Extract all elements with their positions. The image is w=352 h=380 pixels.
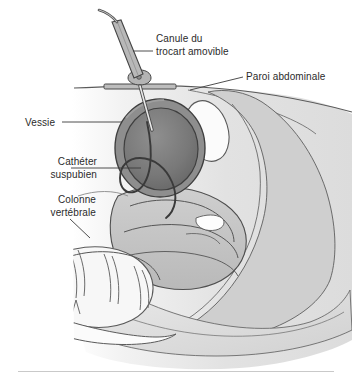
label-catheter-suspubien: Cathéter suspubien [17,156,97,181]
label-vessie: Vessie [25,117,55,130]
label-canule-line1: Canule du [156,33,203,44]
cannula-tubing [99,10,117,22]
label-catheter-line1: Cathéter [58,156,97,167]
label-colonne-line1: Colonne [58,194,96,205]
label-canule-trocart: Canule du trocart amovible [156,33,229,58]
label-canule-line2: trocart amovible [156,46,229,57]
label-colonne-line2: vertébrale [51,207,96,218]
label-colonne-vertebrale: Colonne vertébrale [20,194,96,219]
label-catheter-line2: suspubien [51,169,98,180]
label-paroi-abdominale: Paroi abdominale [246,71,325,84]
figure-bottom-rule [18,371,334,372]
bladder [115,99,205,197]
label-vessie-line1: Vessie [25,117,55,128]
suprapubic-catheter-figure: Canule du trocart amovible Paroi abdomin… [0,0,352,380]
label-paroi-line1: Paroi abdominale [246,71,325,82]
